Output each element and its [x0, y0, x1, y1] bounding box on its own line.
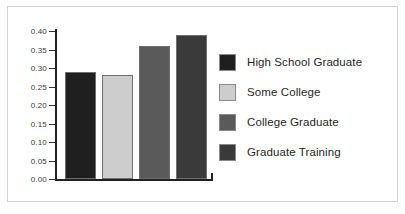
- y-tick-mark: [49, 31, 55, 32]
- y-tick-label: 0.35: [31, 45, 47, 54]
- y-tick-label: 0.30: [31, 64, 47, 73]
- legend-swatch: [219, 114, 236, 131]
- y-tick-label: 0.00: [31, 175, 47, 184]
- legend-item-label: College Graduate: [247, 116, 339, 128]
- plot-area: 0.400.350.300.250.200.150.100.050.00: [55, 31, 205, 179]
- legend-swatch: [219, 54, 236, 71]
- x-axis-line: [55, 179, 213, 181]
- legend-item-label: Some College: [247, 86, 320, 98]
- y-tick-label: 0.10: [31, 138, 47, 147]
- legend-item[interactable]: High School Graduate: [219, 47, 394, 77]
- y-tick-mark: [49, 179, 55, 180]
- legend-item[interactable]: Graduate Training: [219, 137, 394, 167]
- y-tick-label: 0.05: [31, 156, 47, 165]
- y-tick-mark: [49, 124, 55, 125]
- chart-figure: 0.400.350.300.250.200.150.100.050.00 Hig…: [0, 0, 405, 214]
- y-tick-mark: [49, 142, 55, 143]
- bar: [176, 35, 207, 179]
- bar: [102, 75, 133, 179]
- legend-item[interactable]: College Graduate: [219, 107, 394, 137]
- y-tick-mark: [49, 161, 55, 162]
- y-tick-label: 0.25: [31, 82, 47, 91]
- bar: [65, 72, 96, 179]
- legend-item-label: High School Graduate: [247, 56, 362, 68]
- bar: [139, 46, 170, 179]
- y-tick-label: 0.20: [31, 101, 47, 110]
- y-tick-mark: [49, 68, 55, 69]
- y-tick-mark: [49, 87, 55, 88]
- legend-item-label: Graduate Training: [247, 146, 341, 158]
- legend-swatch: [219, 84, 236, 101]
- chart-legend: High School GraduateSome CollegeCollege …: [219, 47, 394, 167]
- legend-swatch: [219, 144, 236, 161]
- y-tick-mark: [49, 105, 55, 106]
- legend-item[interactable]: Some College: [219, 77, 394, 107]
- y-tick-mark: [49, 50, 55, 51]
- y-tick-label: 0.15: [31, 119, 47, 128]
- y-tick-label: 0.40: [31, 27, 47, 36]
- x-axis-end-tick: [211, 173, 213, 180]
